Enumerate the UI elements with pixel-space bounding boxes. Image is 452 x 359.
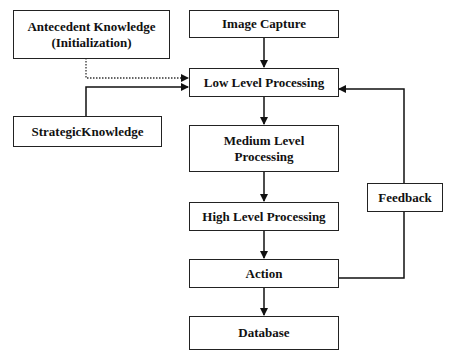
- node-medium-level-processing: Medium Level Processing: [189, 125, 339, 172]
- node-antecedent-knowledge: Antecedent Knowledge (Initialization): [13, 10, 170, 59]
- node-label: Action: [246, 266, 283, 282]
- arrow-strategic-to-low: [86, 87, 188, 116]
- node-label: Image Capture: [222, 16, 306, 32]
- node-feedback: Feedback: [367, 183, 443, 212]
- node-low-level-processing: Low Level Processing: [189, 68, 339, 97]
- node-label: Medium Level: [224, 133, 305, 149]
- node-action: Action: [189, 259, 339, 288]
- node-label: Low Level Processing: [204, 75, 324, 91]
- node-label: Database: [238, 325, 289, 341]
- node-label: Antecedent Knowledge: [27, 19, 155, 35]
- node-sublabel: (Initialization): [51, 35, 131, 51]
- line-action-to-feedback: [338, 211, 404, 278]
- node-image-capture: Image Capture: [189, 10, 339, 38]
- node-sublabel: Processing: [235, 149, 294, 165]
- node-strategic-knowledge: StrategicKnowledge: [13, 116, 162, 147]
- arrow-antecedent-to-low: [86, 58, 188, 78]
- node-label: StrategicKnowledge: [32, 124, 144, 140]
- node-label: High Level Processing: [202, 209, 325, 225]
- arrow-feedback-to-low: [339, 89, 404, 183]
- node-high-level-processing: High Level Processing: [189, 202, 339, 231]
- node-label: Feedback: [378, 190, 431, 206]
- node-database: Database: [189, 316, 339, 350]
